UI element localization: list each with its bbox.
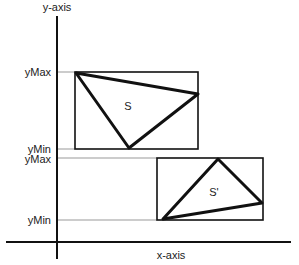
y-axis-label: y-axis <box>43 1 72 13</box>
x-axis-label: x-axis <box>157 249 186 261</box>
ymax-label-s-prime: yMax <box>25 153 52 165</box>
bounding-box-diagram: y-axis x-axis yMax yMin yMax yMin S S' <box>0 0 299 265</box>
shape-label-s: S <box>124 100 131 112</box>
shape-label-s-prime: S' <box>209 186 218 198</box>
ymin-label-s-prime: yMin <box>28 214 51 226</box>
triangle-s <box>76 73 198 148</box>
ymax-label-s: yMax <box>25 66 52 78</box>
